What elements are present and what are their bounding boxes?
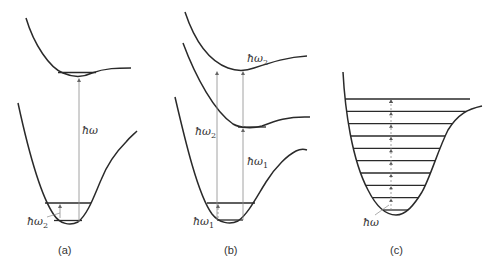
panel-a-small-transition-label: ħω2 [27,215,48,230]
panel-c-ladder-arrowhead [389,149,393,152]
panel-b-upper-transition-label: ħω2 [247,52,268,67]
panel-c-potential-curve [343,72,482,215]
panel-c: ħω (c) [343,72,482,256]
panel-a-ground-potential-curve [18,103,137,224]
panel-c-ladder-arrowhead [389,112,393,115]
panel-c-ladder-arrowhead [389,125,393,128]
panel-a-caption: (a) [58,244,71,256]
panel-c-ladder-arrowhead [389,174,393,177]
panel-a-excited-potential-curve [26,18,131,76]
panel-c-ladder-ticks [389,100,393,202]
panel-c-ladder-label: ħω [363,216,379,229]
panel-b-small-transition-label: ħω1 [193,215,214,230]
panel-c-caption: (c) [390,244,403,256]
panel-a: ħω ħω2 (a) [18,18,137,256]
panel-c-ladder-arrowhead [389,100,393,103]
energy-level-diagram: ħω ħω2 (a) ħω2 ħω2 ħω1 ħω1 (b) ħω (c) [0,0,499,269]
panel-a-main-transition-label: ħω [82,124,98,137]
panel-b-upper-potential-curve [185,12,307,70]
panel-b-left-transition-label: ħω2 [195,125,216,140]
panel-c-ladder-arrowhead [389,199,393,202]
panel-b-ground-potential-curve [175,97,307,223]
panel-c-ladder-arrowhead [389,186,393,189]
panel-c-ladder-arrowhead [389,137,393,140]
panel-b: ħω2 ħω2 ħω1 ħω1 (b) [175,12,310,256]
panel-c-ladder-levels [345,99,470,210]
panel-c-ladder-arrowhead [389,162,393,165]
panel-b-lower-transition-label: ħω1 [247,155,268,170]
panel-b-caption: (b) [224,244,237,256]
